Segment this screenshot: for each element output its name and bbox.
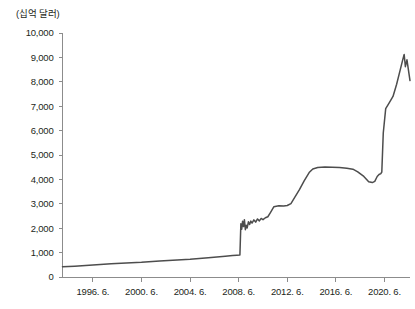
x-axis-tick-label: 2012. 6. — [271, 286, 304, 297]
y-axis-tick-label: 8,000 — [31, 76, 54, 87]
x-axis-tick-marks — [93, 277, 385, 282]
y-axis-tick-label: 7,000 — [31, 101, 54, 112]
x-axis-tick-label: 2020. 6. — [368, 286, 401, 297]
y-axis-tick-label: 3,000 — [31, 198, 54, 209]
x-axis-tick-label: 2000. 6. — [125, 286, 158, 297]
x-axis-tick-label: 2008. 6. — [222, 286, 255, 297]
y-axis-tick-label: 4,000 — [31, 174, 54, 185]
y-axis-tick-labels: 10,0009,0008,0007,0006,0005,0004,0003,00… — [26, 27, 54, 282]
x-axis-tick-label: 2004. 6. — [174, 286, 207, 297]
data-series-line — [63, 54, 411, 266]
y-axis-tick-label: 5,000 — [31, 149, 54, 160]
x-axis-tick-label: 1996. 6. — [77, 286, 110, 297]
x-axis-tick-label: 2016. 6. — [320, 286, 353, 297]
y-axis-tick-label: 10,000 — [26, 27, 54, 38]
y-axis-tick-label: 2,000 — [31, 223, 54, 234]
y-axis-tick-label: 1,000 — [31, 247, 54, 258]
x-axis-tick-labels: 1996. 6.2000. 6.2004. 6.2008. 6.2012. 6.… — [77, 286, 401, 297]
chart-container: (십억 달러) 10,0009,0008,0007,0006,0005,0004… — [0, 0, 415, 309]
y-axis-tick-label: 9,000 — [31, 52, 54, 63]
y-axis-tick-label: 6,000 — [31, 125, 54, 136]
y-axis-tick-label: 0 — [48, 271, 53, 282]
y-axis-tick-marks — [59, 33, 63, 277]
line-chart-plot: 10,0009,0008,0007,0006,0005,0004,0003,00… — [0, 0, 415, 309]
